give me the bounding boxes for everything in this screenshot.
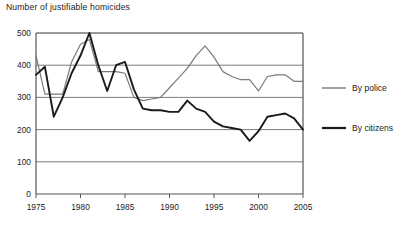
x-axis-tick-labels: 1975198019851990199520002005 — [27, 202, 313, 212]
legend-label-by-police: By police — [352, 83, 387, 93]
x-axis-ticks — [36, 194, 303, 198]
chart-figure: Number of justifiable homicides 19751980… — [0, 0, 407, 239]
x-tick-label: 2000 — [249, 202, 268, 212]
x-tick-label: 1985 — [116, 202, 135, 212]
x-tick-label: 1995 — [205, 202, 224, 212]
x-tick-label: 1990 — [160, 202, 179, 212]
x-tick-label: 2005 — [294, 202, 313, 212]
y-tick-label: 0 — [26, 189, 31, 199]
y-tick-label: 400 — [17, 60, 31, 70]
x-tick-label: 1975 — [27, 202, 46, 212]
y-tick-label: 500 — [17, 28, 31, 38]
legend-label-by-citizens: By citizens — [352, 123, 393, 133]
y-tick-label: 200 — [17, 125, 31, 135]
x-tick-label: 1980 — [71, 202, 90, 212]
y-tick-label: 300 — [17, 92, 31, 102]
axes — [36, 33, 303, 194]
chart-legend: By policeBy citizens — [322, 83, 393, 133]
line-chart-plot: 1975198019851990199520002005 01002003004… — [0, 0, 407, 239]
series-line-by-police — [36, 39, 303, 100]
y-tick-label: 100 — [17, 157, 31, 167]
y-axis-tick-labels: 0100200300400500 — [17, 28, 31, 199]
data-series-lines — [36, 33, 303, 141]
